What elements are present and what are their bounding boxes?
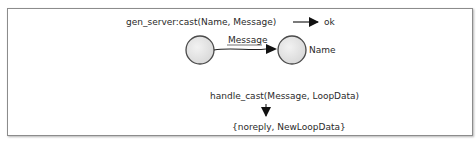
cast-result-text: ok: [324, 17, 336, 27]
client-process-node: [186, 36, 214, 64]
server-name-label: Name: [309, 45, 336, 55]
diagram-canvas: gen_server:cast(Name, Message) ok Messag…: [0, 0, 476, 141]
return-value-text: {noreply, NewLoopData}: [232, 122, 346, 132]
message-edge-line: [214, 49, 266, 50]
cast-call-text: gen_server:cast(Name, Message): [126, 17, 276, 27]
handle-cast-text: handle_cast(Message, LoopData): [210, 91, 359, 101]
server-process-node: [278, 36, 306, 64]
message-edge-label: Message: [228, 35, 268, 45]
message-arrowhead-icon: [266, 44, 277, 54]
